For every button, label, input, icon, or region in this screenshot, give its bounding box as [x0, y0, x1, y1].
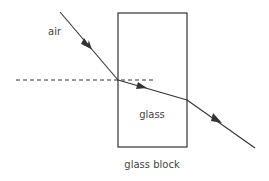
- refracted-ray: [118, 80, 187, 100]
- arrow-icon: [211, 113, 222, 123]
- incident-ray: [60, 12, 118, 80]
- caption-label: glass block: [124, 159, 180, 170]
- air-label: air: [48, 26, 62, 37]
- refraction-diagram: air glass glass block: [0, 0, 269, 181]
- glass-label: glass: [139, 109, 165, 120]
- emergent-ray: [187, 100, 255, 148]
- arrow-icon: [81, 38, 91, 48]
- arrow-icon: [136, 82, 147, 89]
